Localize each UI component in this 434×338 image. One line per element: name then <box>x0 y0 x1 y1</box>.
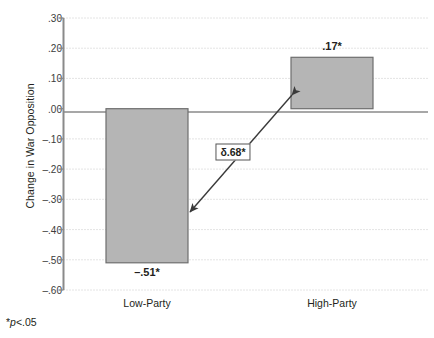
footnote-threshold: <.05 <box>16 316 37 328</box>
plot-area <box>0 0 434 338</box>
bar-value-label-low-party: –.51* <box>134 266 160 278</box>
bar-low-party <box>106 109 188 263</box>
x-axis-tick-label-low-party: Low-Party <box>123 297 170 309</box>
chart-figure: Change in War Opposition .30.20.10.00–.1… <box>0 0 434 338</box>
significance-footnote: *p<.05 <box>6 316 37 328</box>
bar-value-label-high-party: .17* <box>322 40 342 52</box>
delta-annotation-label: δ.68* <box>215 144 250 161</box>
bar-high-party <box>291 57 373 108</box>
x-axis-tick-label-high-party: High-Party <box>307 297 357 309</box>
